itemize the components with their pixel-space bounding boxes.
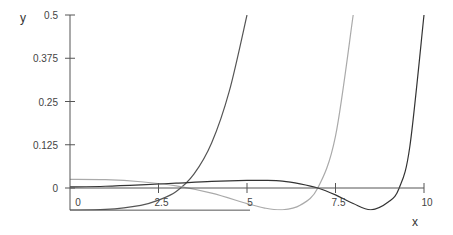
y-tick-label: 0.5	[44, 10, 58, 21]
x-tick-label: 10	[421, 197, 433, 208]
x-tick-label: 7.5	[332, 197, 346, 208]
y-tick-label: 0.375	[33, 53, 58, 64]
y-tick-label: 0.125	[33, 140, 58, 151]
curves	[70, 15, 424, 210]
y-tick-label: 0.25	[39, 97, 59, 108]
x-axis-label: x	[412, 215, 418, 229]
x-tick-label: 0	[75, 197, 81, 208]
x-tick-label: 2.5	[155, 197, 169, 208]
y-tick-label: 0	[52, 183, 58, 194]
x-tick-label: 5	[247, 197, 253, 208]
chart: 00.1250.250.3750.502.557.510 y x	[0, 0, 453, 235]
y-axis-label: y	[20, 11, 26, 25]
curve-2	[70, 15, 353, 210]
